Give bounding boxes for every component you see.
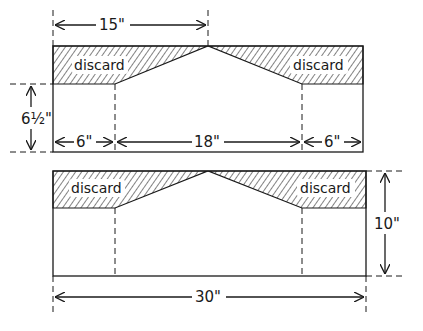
bottom-discard-right-label: discard: [300, 180, 351, 196]
bottom-discard-left-label: discard: [71, 180, 122, 196]
top-discard-right-label: discard: [293, 57, 344, 73]
top-discard-left-label: discard: [74, 57, 125, 73]
bottom-panel: discard discard 10" 30": [53, 171, 405, 315]
dim-middle-18-label: 18": [194, 133, 220, 151]
dim-left-6-label: 6": [76, 133, 92, 151]
dim-6half-label: 6½": [21, 110, 52, 128]
cutting-diagram: discard discard 15" 6½" 6" 18" 6" discar…: [0, 0, 423, 331]
dim-10-label: 10": [374, 215, 400, 233]
dim-right-6-label: 6": [324, 133, 340, 151]
dim-15-label: 15": [99, 16, 125, 34]
dim-30-label: 30": [195, 288, 221, 306]
top-panel: discard discard 15" 6½" 6" 18" 6": [10, 10, 363, 152]
